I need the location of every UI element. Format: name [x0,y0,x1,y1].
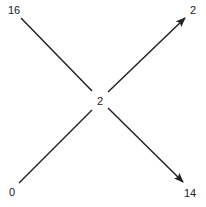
edge-center-to-2 [108,18,185,92]
node-label-top-right: 2 [190,4,196,16]
node-label-top-left: 16 [8,4,20,16]
edge-0-to-center [19,110,92,183]
graph-diagram: 16 2 2 0 14 [0,0,206,207]
node-label-bottom-left: 0 [9,186,15,198]
node-label-center: 2 [97,95,103,107]
edge-center-to-14 [108,108,183,182]
node-label-bottom-right: 14 [184,187,196,199]
edge-16-to-center [21,18,92,91]
